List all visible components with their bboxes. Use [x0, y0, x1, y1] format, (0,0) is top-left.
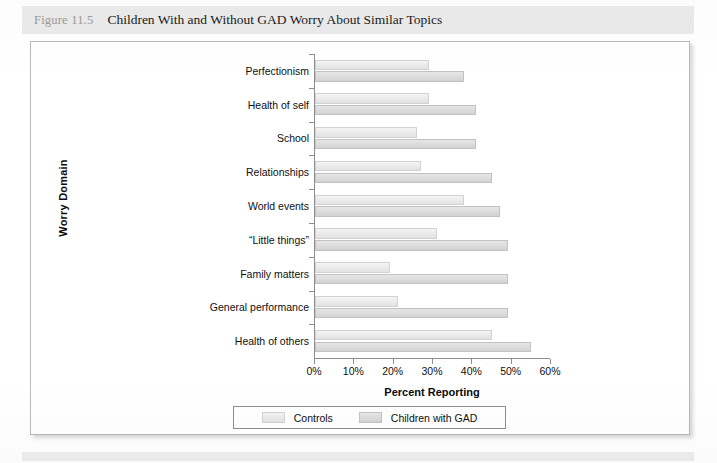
bar-gad	[315, 139, 476, 150]
x-axis-tick-label: 50%	[500, 365, 521, 377]
x-axis-tick-label: 30%	[421, 365, 442, 377]
chart-legend: ControlsChildren with GAD	[233, 406, 506, 429]
legend-label: Children with GAD	[391, 412, 477, 424]
y-axis-category-label: Health of others	[235, 335, 309, 347]
x-axis-tick-label: 20%	[382, 365, 403, 377]
y-axis-category-label: Health of self	[248, 99, 309, 111]
y-axis-tick	[309, 88, 314, 89]
y-axis-category-label: School	[277, 132, 309, 144]
bar-row: “Little things”	[31, 223, 691, 257]
x-axis-tick-labels: 0%10%20%30%40%50%60%	[314, 365, 554, 381]
figure-frame: Worry Domain PerfectionismHealth of self…	[30, 41, 690, 435]
x-axis-tick	[393, 359, 394, 364]
bar-controls	[315, 161, 421, 172]
x-axis-tick	[353, 359, 354, 364]
y-axis-tick	[309, 223, 314, 224]
y-axis-tick	[309, 324, 314, 325]
bar-controls	[315, 228, 437, 239]
bar-gad	[315, 173, 492, 184]
bar-row: Health of others	[31, 324, 691, 358]
bar-gad	[315, 105, 476, 116]
bar-row: Perfectionism	[31, 54, 691, 88]
y-axis-tick	[309, 122, 314, 123]
y-axis-category-label: Relationships	[246, 166, 309, 178]
legend-item: Controls	[262, 412, 333, 424]
figure-number: Figure 11.5	[34, 13, 93, 28]
x-axis-tick-label: 40%	[461, 365, 482, 377]
bar-controls	[315, 127, 417, 138]
bar-controls	[315, 296, 398, 307]
legend-swatch-gad	[359, 412, 382, 423]
y-axis-tick	[309, 189, 314, 190]
y-axis-tick	[309, 257, 314, 258]
x-axis-tick	[550, 359, 551, 364]
figure-page: Figure 11.5 Children With and Without GA…	[0, 0, 717, 463]
bar-row: Health of self	[31, 88, 691, 122]
x-axis-tick	[314, 359, 315, 364]
y-axis-category-label: Family matters	[240, 268, 309, 280]
x-axis-tick	[471, 359, 472, 364]
bar-controls	[315, 60, 429, 71]
x-axis-title: Percent Reporting	[314, 386, 550, 398]
x-axis-tick-label: 60%	[539, 365, 560, 377]
figure-title: Children With and Without GAD Worry Abou…	[107, 12, 442, 28]
y-axis-category-label: General performance	[210, 301, 309, 313]
bar-gad	[315, 240, 508, 251]
bar-row: Family matters	[31, 257, 691, 291]
figure-caption: Figure 11.5 Children With and Without GA…	[34, 9, 674, 31]
legend-label: Controls	[294, 412, 333, 424]
y-axis-category-label: Perfectionism	[245, 65, 309, 77]
bar-controls	[315, 262, 390, 273]
bar-controls	[315, 195, 464, 206]
bar-gad	[315, 308, 508, 319]
bar-gad	[315, 71, 464, 82]
bar-row: World events	[31, 189, 691, 223]
bar-gad	[315, 206, 500, 217]
bar-controls	[315, 330, 492, 341]
x-axis-tick	[511, 359, 512, 364]
x-axis-tick	[432, 359, 433, 364]
y-axis-tick	[309, 291, 314, 292]
y-axis-tick	[309, 155, 314, 156]
bar-controls	[315, 93, 429, 104]
bar-rows-container: PerfectionismHealth of selfSchoolRelatio…	[31, 54, 691, 358]
x-axis-tick-label: 10%	[343, 365, 364, 377]
y-axis-category-label: World events	[248, 200, 309, 212]
bar-row: School	[31, 122, 691, 156]
x-axis-tick-label: 0%	[306, 365, 321, 377]
bar-row: Relationships	[31, 155, 691, 189]
bar-gad	[315, 342, 531, 353]
legend-item: Children with GAD	[359, 412, 477, 424]
chart-plot-area: Worry Domain PerfectionismHealth of self…	[31, 42, 691, 436]
page-bottom-band	[22, 452, 694, 461]
bar-gad	[315, 274, 508, 285]
y-axis-tick	[309, 54, 314, 55]
legend-swatch-controls	[262, 412, 285, 423]
bar-row: General performance	[31, 291, 691, 325]
y-axis-category-label: “Little things”	[249, 234, 309, 246]
